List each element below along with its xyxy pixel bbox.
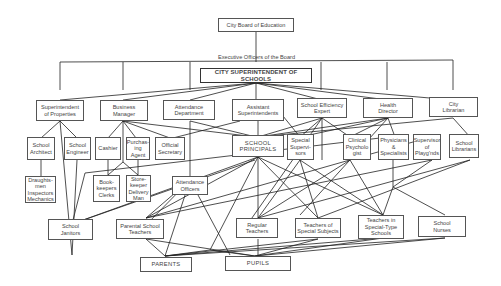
node-purchasing-agent: Purchas- ing Agent	[126, 137, 150, 160]
node-superintendent: CITY SUPERINTENDENT OF SCHOOLS	[200, 68, 312, 83]
node-special-subject-teachers: Teachers of Special Subjects	[295, 218, 341, 238]
node-asst-superintendents: Assistant Superintendents	[232, 99, 284, 121]
node-school-engineer: School Engineer	[64, 137, 91, 160]
node-clinical-psychologist: Clinical Psycholo gist	[343, 134, 371, 160]
node-cashier: Cashier	[95, 137, 121, 160]
node-board: City Board of Education	[218, 18, 294, 32]
node-business-manager: Business Manager	[100, 100, 148, 121]
node-regular-teachers: Regular Teachers	[236, 218, 278, 238]
node-pupils: PUPILS	[225, 256, 291, 271]
executive-officers-label: Executive Officers of the Board	[218, 54, 295, 60]
node-sup-properties: Superintendent of Properties	[36, 100, 84, 121]
node-school-principals: SCHOOL PRINCIPALS	[232, 135, 284, 157]
node-school-architect: School Architect	[27, 137, 55, 160]
node-parents: PARENTS	[140, 257, 192, 272]
node-attendance-officers: Attendance Officers	[172, 176, 208, 195]
node-draughtsmen: Draughts- men Inspectors Mechanics	[25, 176, 56, 203]
node-attendance-dept: Attendance Department	[163, 100, 215, 120]
node-parental-teachers: Parental School Teachers	[116, 219, 164, 239]
node-supervisor-playgrounds: Supervisor of Playg'nds	[413, 134, 441, 160]
node-school-nurses: School Nurses	[418, 216, 466, 237]
node-school-librarians: School Librarians	[449, 134, 479, 158]
node-efficiency-expert: School Efficiency Expert	[297, 98, 347, 118]
node-storekeeper: Store- keeper Delivery Man	[126, 175, 151, 202]
node-special-type-teachers: Teachers in Special-Type Schools	[358, 215, 404, 239]
node-health-director: Health Director	[363, 98, 413, 118]
node-special-supervisors: Special Supervi- sors	[287, 134, 314, 160]
node-physicians: Physicians & Specialists	[378, 134, 409, 160]
node-school-janitors: School Janitors	[48, 219, 93, 240]
node-bookkeepers: Book- keepers Clerks	[93, 175, 120, 202]
node-official-secretary: Official Secretary	[155, 137, 185, 160]
node-city-librarian: City Librarian	[429, 97, 478, 117]
